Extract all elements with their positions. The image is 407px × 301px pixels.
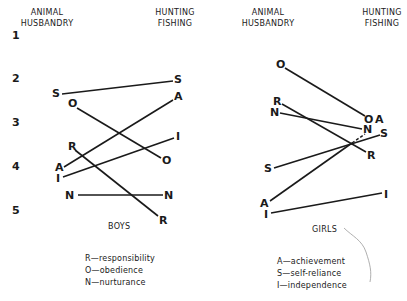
girls-line-A <box>270 143 352 201</box>
legend-item-A: A—achievement <box>277 256 347 268</box>
girls-caption: GIRLS <box>312 225 337 234</box>
boys-right-S: S <box>174 74 182 85</box>
boys-left-R: R <box>68 141 76 152</box>
girls-right-S: S <box>380 128 388 139</box>
legend-item-S: S—self-reliance <box>277 268 347 280</box>
boys-right-A: A <box>174 91 183 102</box>
legend-item-O: O—obedience <box>85 265 155 277</box>
boys-right-O: O <box>162 155 171 166</box>
boys-left-O: O <box>68 98 77 109</box>
girls-line-O <box>285 68 365 116</box>
pencil-mark <box>344 228 371 282</box>
boys-right-N: N <box>164 190 173 201</box>
legend-item-I: I—independence <box>277 280 347 292</box>
girls-left-I: I <box>264 209 268 220</box>
girls-left-O: O <box>276 59 285 70</box>
boys-right-I: I <box>176 131 180 142</box>
girls-right-I: I <box>384 189 388 200</box>
legend-item-R: R—responsibility <box>85 253 155 265</box>
girls-right-N: N <box>363 124 372 135</box>
boys-left-N: N <box>65 190 74 201</box>
boys-line-S <box>62 81 173 94</box>
boys-caption: BOYS <box>108 222 130 231</box>
boys-left-S: S <box>52 88 60 99</box>
girls-left-N: N <box>270 107 279 118</box>
girls-line-I <box>271 193 382 213</box>
boys-right-R: R <box>159 215 167 226</box>
boys-left-I: I <box>56 173 60 184</box>
legend-item-N: N—nurturance <box>85 277 155 289</box>
girls-right-R: R <box>367 150 375 161</box>
girls-left-S: S <box>264 163 272 174</box>
girls-right-A: A <box>375 114 384 125</box>
boys-line-R <box>75 150 158 216</box>
legend-girls: A—achievement S—self-reliance I—independ… <box>277 256 347 292</box>
legend-boys: R—responsibility O—obedience N—nurturanc… <box>85 253 155 289</box>
